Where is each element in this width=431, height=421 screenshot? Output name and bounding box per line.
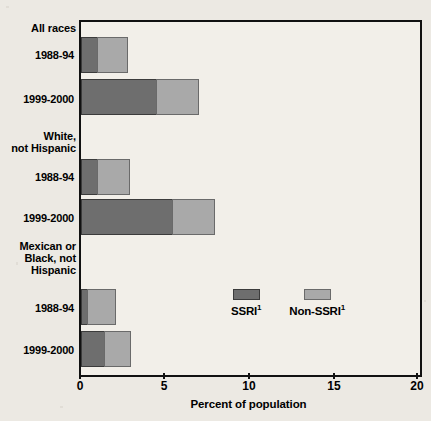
bar-segment-nonssri (156, 79, 199, 115)
group-label-all-races: All races (0, 22, 76, 34)
legend: SSRI1 Non-SSRI1 (231, 289, 345, 317)
group-label-line: not Hispanic (0, 142, 76, 154)
bar-all-races-1999-2000 (81, 79, 199, 115)
bar-segment-ssri (81, 159, 98, 195)
category-label-1999-2000-all-races: 1999-2000 (0, 93, 74, 105)
bar-segment-nonssri (172, 199, 215, 235)
group-label-mexican-or-black-not-hispanic: Mexican or Black, not Hispanic (0, 240, 76, 276)
bar-segment-nonssri (97, 37, 128, 73)
legend-item-ssri: SSRI1 (231, 289, 261, 317)
category-label-1999-2000-mexican-black: 1999-2000 (0, 344, 74, 356)
footnote-marker: 1 (341, 303, 345, 312)
legend-swatch-nonssri (304, 289, 331, 300)
bar-mexican-black-1999-2000 (81, 331, 131, 367)
bar-segment-nonssri (97, 159, 130, 195)
x-axis-tick-label-5: 5 (144, 379, 184, 393)
group-label-line: Mexican or (0, 240, 76, 252)
legend-label-ssri-text: SSRI (231, 305, 257, 317)
legend-swatch-ssri (233, 289, 260, 300)
legend-label-nonssri-text: Non-SSRI (289, 305, 340, 317)
legend-label-ssri: SSRI1 (231, 303, 261, 317)
category-label-1988-94-all-races: 1988-94 (0, 49, 74, 61)
category-label-1988-94-mexican-black: 1988-94 (0, 302, 74, 314)
bar-all-races-1988-94 (81, 37, 128, 73)
bar-segment-nonssri (87, 289, 116, 325)
bar-segment-ssri (81, 331, 105, 367)
group-label-line: Hispanic (0, 264, 76, 276)
x-axis-title: Percent of population (79, 398, 418, 410)
bar-white-not-hispanic-1999-2000 (81, 199, 215, 235)
bar-segment-ssri (81, 37, 98, 73)
x-axis-tick-label-20: 20 (397, 379, 431, 393)
bar-segment-ssri (81, 199, 173, 235)
category-label-1988-94-white: 1988-94 (0, 171, 74, 183)
bar-mexican-black-1988-94 (81, 289, 116, 325)
bar-segment-ssri (81, 79, 157, 115)
scan-noise (60, 406, 63, 408)
footnote-marker: 1 (257, 303, 261, 312)
x-axis-tick-label-15: 15 (314, 379, 354, 393)
group-label-line: White, (0, 130, 76, 142)
legend-label-nonssri: Non-SSRI1 (289, 303, 345, 317)
x-axis-tick-label-10: 10 (229, 379, 269, 393)
scan-noise (424, 300, 426, 302)
scan-noise (6, 6, 9, 8)
legend-item-nonssri: Non-SSRI1 (289, 289, 345, 317)
category-label-1999-2000-white: 1999-2000 (0, 212, 74, 224)
group-label-line: Black, not (0, 252, 76, 264)
bar-white-not-hispanic-1988-94 (81, 159, 130, 195)
bar-segment-nonssri (104, 331, 131, 367)
stacked-bar-chart: All races 1988-94 1999-2000 White, not H… (0, 0, 431, 421)
x-axis-tick-label-0: 0 (60, 379, 100, 393)
group-label-white-not-hispanic: White, not Hispanic (0, 130, 76, 154)
